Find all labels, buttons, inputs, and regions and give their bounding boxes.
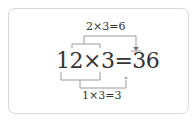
bottom-bracket <box>61 72 100 80</box>
bottom-equation: 1×3=3 <box>82 89 121 102</box>
main-equation: 12×3=36 <box>56 48 159 73</box>
top-equation: 2×3=6 <box>86 20 125 33</box>
top-connector <box>84 36 136 48</box>
up-arrow-icon <box>124 76 128 79</box>
bottom-connector <box>80 80 126 88</box>
